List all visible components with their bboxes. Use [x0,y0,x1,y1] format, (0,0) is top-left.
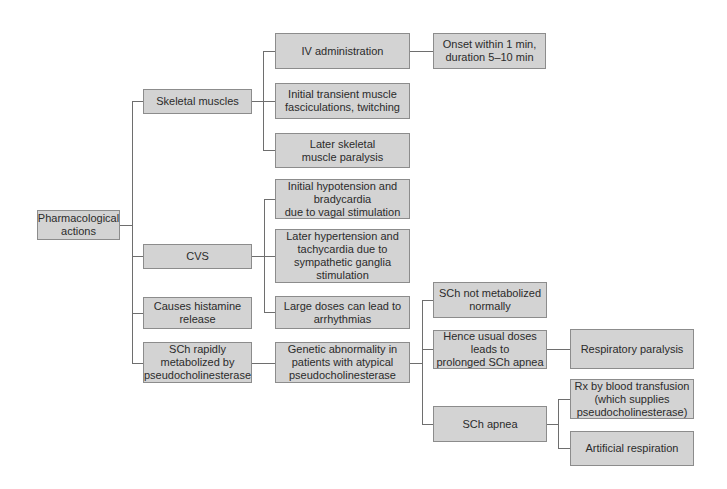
connector [263,51,275,52]
connector [263,101,275,102]
connector [252,101,263,102]
connector [422,424,433,425]
node-onset-duration: Onset within 1 min, duration 5–10 min [433,33,546,69]
connector [422,349,433,350]
connector [132,313,143,314]
connector [252,363,275,364]
node-later-hypertension: Later hypertension and tachycardia due t… [275,229,410,283]
node-sch-not-metabolized: SCh not metabolized normally [433,282,547,318]
node-histamine-release: Causes histamine release [143,297,252,329]
connector [264,312,275,313]
node-initial-hypotension: Initial hypotension and bradycardia due … [275,179,410,219]
node-genetic-abnormality: Genetic abnormality in patients with aty… [275,342,410,383]
node-sch-apnea: SCh apnea [433,406,547,442]
node-iv-administration: IV administration [275,33,410,69]
connector [547,424,558,425]
connector [558,448,570,449]
node-later-skeletal-paralysis: Later skeletal muscle paralysis [275,133,410,168]
connector [132,256,143,257]
node-muscle-fasciculations: Initial transient muscle fasciculations,… [275,83,410,119]
node-prolonged-sch-apnea: Hence usual doses leads to prolonged SCh… [433,330,547,369]
connector [264,199,275,200]
connector [132,101,143,102]
connector [558,399,559,449]
node-skeletal-muscles: Skeletal muscles [143,89,252,114]
node-pharmacological-actions: Pharmacological actions [37,210,120,240]
node-blood-transfusion: Rx by blood transfusion (which supplies … [570,379,694,419]
connector [132,101,133,364]
node-sch-rapidly-metabolized: SCh rapidly metabolized by pseudocholine… [143,342,252,383]
connector [422,300,423,424]
connector [252,256,264,257]
connector [264,256,275,257]
node-artificial-respiration: Artificial respiration [570,431,694,466]
connector [422,300,433,301]
node-cvs: CVS [143,244,252,269]
connector [410,363,422,364]
node-arrhythmias: Large doses can lead to arrhythmias [275,296,410,329]
connector [547,349,570,350]
node-respiratory-paralysis: Respiratory paralysis [570,329,694,369]
connector [410,51,433,52]
connector [132,363,143,364]
connector [558,399,570,400]
connector [263,150,275,151]
connector [120,225,132,226]
